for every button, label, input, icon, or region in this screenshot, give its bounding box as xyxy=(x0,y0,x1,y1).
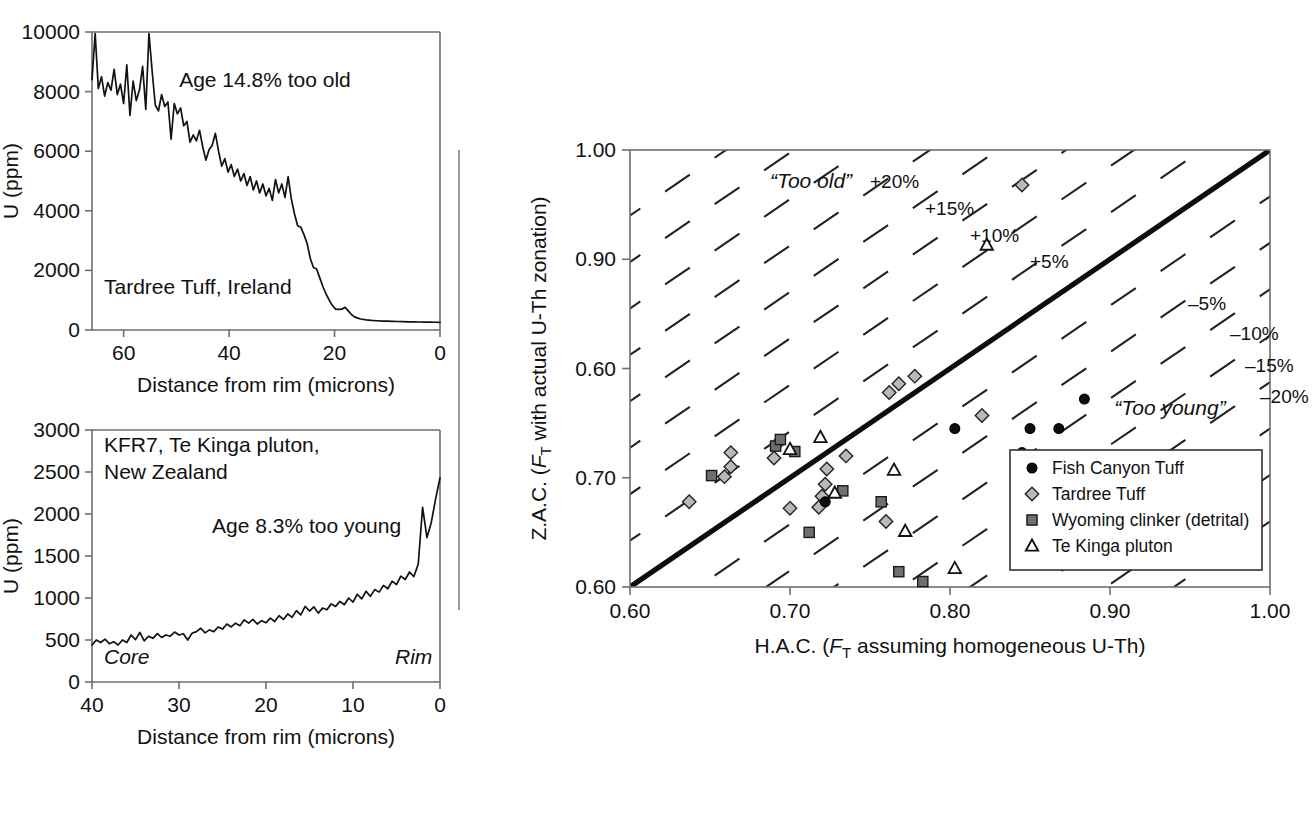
legend-label: Wyoming clinker (detrital) xyxy=(1052,510,1249,530)
x-axis-label: Distance from rim (microns) xyxy=(137,373,395,396)
y-tick-label: 1500 xyxy=(33,544,80,567)
x-label-suffix: assuming homogeneous U-Th) xyxy=(851,634,1145,657)
x-tick-label: 0 xyxy=(434,693,446,716)
panel-right-ft-scatter: 1.000.900.600.700.600.600.700.800.901.00… xyxy=(470,120,1315,700)
percent-label: +15% xyxy=(925,198,974,219)
legend-label: Te Kinga pluton xyxy=(1052,536,1173,556)
data-point-square xyxy=(894,567,904,577)
x-tick-label: 0.70 xyxy=(770,599,811,622)
x-tick-label: 40 xyxy=(217,341,240,364)
percent-label: –15% xyxy=(1245,355,1294,376)
annotation-sample-name: Tardree Tuff, Ireland xyxy=(104,275,292,298)
y-tick-label: 2500 xyxy=(33,460,80,483)
percent-label: +20% xyxy=(870,171,919,192)
percent-label: +10% xyxy=(970,225,1019,246)
label-core: Core xyxy=(104,645,150,668)
y-tick-label: 0.60 xyxy=(575,575,616,598)
y-tick-label: 2000 xyxy=(33,502,80,525)
legend-marker-circle xyxy=(1027,463,1037,473)
legend-marker-square xyxy=(1027,515,1037,525)
x-tick-label: 20 xyxy=(254,693,277,716)
y-tick-label: 4000 xyxy=(33,199,80,222)
x-tick-label: 1.00 xyxy=(1250,599,1291,622)
y-axis-label-group: Z.A.C. (FT with actual U-Th zonation) xyxy=(527,196,554,540)
y-tick-label: 6000 xyxy=(33,139,80,162)
data-point-square xyxy=(804,527,814,537)
region-label-too-old: “Too old” xyxy=(770,169,853,192)
y-tick-label: 0.90 xyxy=(575,247,616,270)
label-rim: Rim xyxy=(395,645,432,668)
y-tick-label: 0.60 xyxy=(575,357,616,380)
panel-bottom-left-uranium-profile: 050010001500200025003000403020100Distanc… xyxy=(0,400,450,800)
x-tick-label: 20 xyxy=(323,341,346,364)
region-label-too-young: “Too young” xyxy=(1114,396,1226,419)
x-axis-label: Distance from rim (microns) xyxy=(137,725,395,748)
y-tick-label: 0 xyxy=(68,318,80,341)
data-point-circle xyxy=(1079,394,1089,404)
y-axis-label: U (ppm) xyxy=(0,143,22,219)
y-label-suffix: with actual U-Th zonation) xyxy=(527,196,550,446)
data-line xyxy=(92,478,440,645)
x-tick-label: 60 xyxy=(112,341,135,364)
data-point-circle xyxy=(820,497,830,507)
data-point-square xyxy=(707,470,717,480)
y-label-prefix: Z.A.C. ( xyxy=(527,468,550,540)
bottom-left-chart-svg: 050010001500200025003000403020100Distanc… xyxy=(0,400,450,800)
x-tick-label: 30 xyxy=(167,693,190,716)
x-axis-label: H.A.C. (FT assuming homogeneous U-Th) xyxy=(755,634,1146,661)
panel-top-left-uranium-profile: 02000400060008000100006040200Distance fr… xyxy=(0,0,450,400)
x-label-ft-sub: T xyxy=(842,644,851,661)
annotation-age-too-old: Age 14.8% too old xyxy=(179,68,351,91)
x-tick-label: 0 xyxy=(434,341,446,364)
x-tick-label: 10 xyxy=(341,693,364,716)
data-point-circle xyxy=(950,424,960,434)
percent-label: +5% xyxy=(1030,251,1069,272)
x-tick-label: 0.60 xyxy=(610,599,651,622)
annotation-sample-line1: KFR7, Te Kinga pluton, xyxy=(104,433,320,456)
data-point-circle xyxy=(1025,424,1035,434)
annotation-sample-line2: New Zealand xyxy=(104,460,228,483)
y-tick-label: 500 xyxy=(45,628,80,651)
x-tick-label: 40 xyxy=(80,693,103,716)
percent-label: –20% xyxy=(1260,386,1309,407)
annotation-age-too-young: Age 8.3% too young xyxy=(212,514,401,537)
percent-label: –10% xyxy=(1230,323,1279,344)
legend-label: Tardree Tuff xyxy=(1052,484,1145,504)
data-point-square xyxy=(918,576,928,586)
percent-label: –5% xyxy=(1188,293,1226,314)
y-tick-label: 1.00 xyxy=(575,138,616,161)
panel-divider xyxy=(458,150,460,610)
y-tick-label: 0 xyxy=(68,670,80,693)
y-tick-label: 0.70 xyxy=(575,466,616,489)
x-label-prefix: H.A.C. ( xyxy=(755,634,830,657)
y-label-ft-sub: T xyxy=(537,446,554,455)
y-tick-label: 1000 xyxy=(33,586,80,609)
top-left-chart-svg: 02000400060008000100006040200Distance fr… xyxy=(0,0,450,400)
y-axis-label: Z.A.C. (FT with actual U-Th zonation) xyxy=(527,196,554,540)
y-tick-label: 3000 xyxy=(33,418,80,441)
legend-label: Fish Canyon Tuff xyxy=(1052,458,1184,478)
x-tick-label: 0.80 xyxy=(930,599,971,622)
data-point-square xyxy=(775,434,785,444)
y-tick-label: 8000 xyxy=(33,80,80,103)
y-tick-label: 2000 xyxy=(33,258,80,281)
data-point-circle xyxy=(1054,424,1064,434)
y-tick-label: 10000 xyxy=(22,20,80,43)
data-point-square xyxy=(876,497,886,507)
y-axis-label: U (ppm) xyxy=(0,518,22,594)
right-scatter-svg: 1.000.900.600.700.600.600.700.800.901.00… xyxy=(470,120,1315,700)
x-tick-label: 0.90 xyxy=(1090,599,1131,622)
